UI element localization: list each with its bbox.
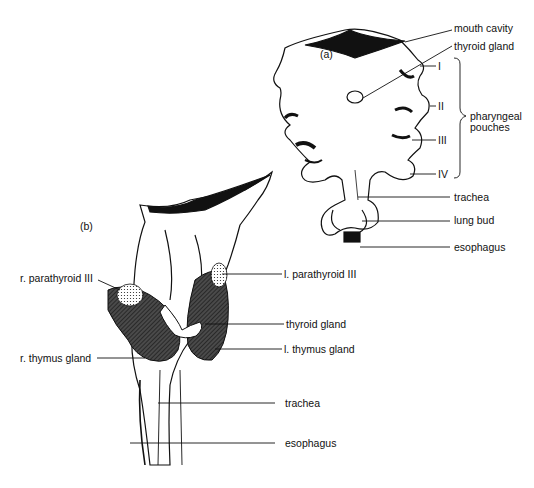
label-pouches: pouches — [470, 121, 510, 133]
label-trachea-b: trachea — [285, 397, 320, 409]
label-trachea-a: trachea — [454, 191, 489, 203]
label-pouch-2: II — [438, 100, 444, 112]
label-esophagus-a: esophagus — [454, 241, 505, 253]
panel-a-label: (a) — [320, 48, 333, 60]
label-pouch-4: IV — [438, 168, 448, 180]
figure-canvas: (a) (b) mouth cavity thyroid gland I II … — [0, 0, 534, 488]
label-r-thymus: r. thymus gland — [20, 352, 91, 364]
label-thyroid-gland-b: thyroid gland — [286, 318, 346, 330]
label-pouch-3: III — [438, 134, 447, 146]
label-esophagus-b: esophagus — [285, 437, 336, 449]
label-r-parathyroid: r. parathyroid III — [20, 272, 93, 284]
left-parathyroid-shape — [211, 263, 227, 287]
label-l-parathyroid: l. parathyroid III — [284, 268, 356, 280]
label-lung-bud: lung bud — [454, 214, 494, 226]
label-mouth-cavity: mouth cavity — [454, 22, 513, 34]
label-pouch-1: I — [438, 60, 441, 72]
label-l-thymus: l. thymus gland — [284, 343, 355, 355]
right-parathyroid-shape — [117, 284, 143, 306]
pharynx-ventral-view — [274, 29, 429, 242]
panel-b-label: (b) — [80, 220, 93, 232]
label-thyroid-gland-a: thyroid gland — [454, 40, 514, 52]
